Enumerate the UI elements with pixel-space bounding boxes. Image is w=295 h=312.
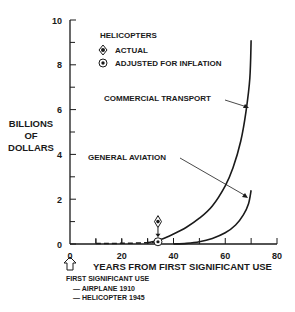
- y-label-line-3: DOLLARS: [8, 142, 54, 153]
- footnote-line-3: — HELICOPTER 1945: [73, 294, 145, 301]
- y-tick-label: 8: [57, 60, 62, 70]
- legend-adjusted: ADJUSTED FOR INFLATION: [115, 59, 222, 68]
- y-tick-label: 6: [57, 105, 62, 115]
- footnote-line-2: — AIRPLANE 1910: [73, 285, 135, 292]
- y-label-line-1: BILLIONS: [9, 118, 53, 129]
- legend-title: HELICOPTERS: [100, 31, 158, 40]
- annotation-general-aviation: GENERAL AVIATION: [88, 153, 166, 162]
- y-tick-label: 10: [52, 16, 62, 26]
- x-tick-label: 20: [117, 251, 127, 261]
- x-ticks: 020406080: [67, 238, 282, 261]
- x-tick-label: 80: [272, 251, 282, 261]
- general-aviation-line: [174, 190, 252, 244]
- x-label: YEARS FROM FIRST SIGNIFICANT USE: [93, 261, 272, 272]
- arrow-icon: [180, 158, 248, 198]
- x-tick-label: 60: [220, 251, 230, 261]
- legend-actual: ACTUAL: [115, 46, 148, 55]
- helicopter-dashed-line: [96, 242, 158, 244]
- y-tick-label: 2: [57, 195, 62, 205]
- x-tick-label: 40: [168, 251, 178, 261]
- x-tick-label: 0: [67, 251, 72, 261]
- legend-diamond-icon: [99, 45, 107, 55]
- legend-circle-icon: [99, 59, 107, 67]
- helicopter-adjusted-marker: [154, 238, 162, 246]
- y-ticks: 0246810: [52, 16, 76, 250]
- y-label-line-2: OF: [24, 130, 37, 141]
- commercial-transport-line: [148, 40, 252, 243]
- footnote-line-1: FIRST SIGNIFICANT USE: [66, 275, 150, 282]
- chart: 0246810 020406080 BILLIONS OF DOLLARS YE…: [0, 0, 295, 312]
- y-tick-label: 4: [57, 150, 62, 160]
- helicopter-actual-marker: [154, 216, 161, 238]
- annotation-commercial-transport: COMMERCIAL TRANSPORT: [104, 94, 211, 103]
- y-tick-label: 0: [57, 240, 62, 250]
- arrow-icon: [225, 100, 249, 108]
